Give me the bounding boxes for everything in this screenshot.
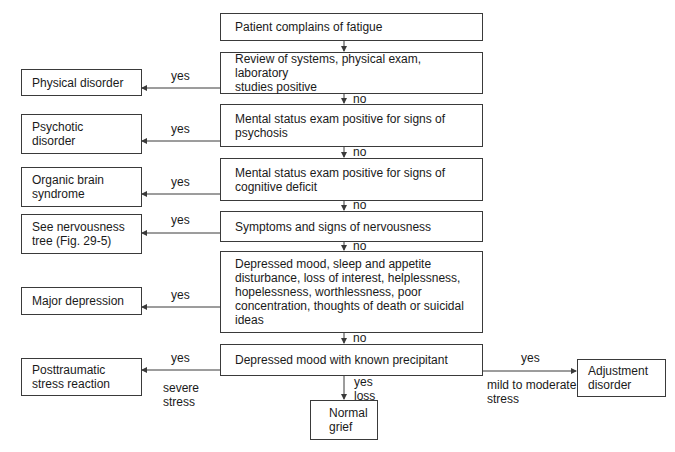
node-text: Normal grief bbox=[329, 406, 368, 434]
label-no: no bbox=[353, 239, 366, 253]
label-yes-right: yes bbox=[521, 351, 540, 365]
node-text: Adjustment disorder bbox=[588, 364, 648, 392]
label-no: no bbox=[353, 92, 366, 106]
label-yes: yes bbox=[171, 213, 190, 227]
node-review-systems: Review of systems, physical exam, labora… bbox=[220, 52, 483, 94]
node-patient-complains-fatigue: Patient complains of fatigue bbox=[220, 13, 483, 41]
node-text: Organic brain syndrome bbox=[32, 173, 104, 201]
node-text: Mental status exam positive for signs of… bbox=[235, 166, 445, 194]
label-no: no bbox=[353, 145, 366, 159]
node-text: Posttraumatic stress reaction bbox=[32, 363, 110, 391]
label-mild-to-moderate-stress: mild to moderate stress bbox=[487, 378, 576, 406]
label-yes: yes bbox=[171, 351, 190, 365]
result-posttraumatic-stress: Posttraumatic stress reaction bbox=[21, 358, 142, 396]
node-nervousness: Symptoms and signs of nervousness bbox=[220, 211, 483, 242]
node-mental-status-psychosis: Mental status exam positive for signs of… bbox=[220, 104, 483, 147]
node-text: Depressed mood, sleep and appetite distu… bbox=[235, 257, 464, 327]
label-yes: yes bbox=[171, 122, 190, 136]
node-text: Psychotic disorder bbox=[32, 120, 83, 148]
result-adjustment-disorder: Adjustment disorder bbox=[577, 359, 666, 397]
result-normal-grief: Normal grief bbox=[310, 400, 378, 440]
node-text: Major depression bbox=[32, 294, 124, 308]
node-text: Mental status exam positive for signs of… bbox=[235, 112, 445, 140]
label-no: no bbox=[353, 331, 366, 345]
label-yes-loss: yes loss bbox=[354, 375, 375, 403]
label-yes: yes bbox=[171, 175, 190, 189]
result-see-nervousness-tree: See nervousness tree (Fig. 29-5) bbox=[21, 214, 142, 254]
node-depressed-mood-precipitant: Depressed mood with known precipitant bbox=[220, 344, 483, 376]
result-major-depression: Major depression bbox=[21, 287, 142, 315]
node-text: Depressed mood with known precipitant bbox=[235, 353, 448, 367]
result-organic-brain-syndrome: Organic brain syndrome bbox=[21, 167, 142, 207]
node-text: Symptoms and signs of nervousness bbox=[235, 220, 431, 234]
node-text: Patient complains of fatigue bbox=[235, 20, 382, 34]
label-yes: yes bbox=[171, 288, 190, 302]
node-text: Physical disorder bbox=[32, 76, 123, 90]
node-mental-status-cognitive: Mental status exam positive for signs of… bbox=[220, 158, 483, 201]
result-psychotic-disorder: Psychotic disorder bbox=[21, 114, 142, 154]
label-yes: yes bbox=[171, 69, 190, 83]
node-text: Review of systems, physical exam, labora… bbox=[235, 52, 472, 94]
label-no: no bbox=[353, 198, 366, 212]
node-depressed-mood-symptoms: Depressed mood, sleep and appetite distu… bbox=[220, 251, 483, 333]
result-physical-disorder: Physical disorder bbox=[21, 69, 142, 96]
label-severe-stress: severe stress bbox=[163, 381, 199, 409]
node-text: See nervousness tree (Fig. 29-5) bbox=[32, 220, 125, 248]
